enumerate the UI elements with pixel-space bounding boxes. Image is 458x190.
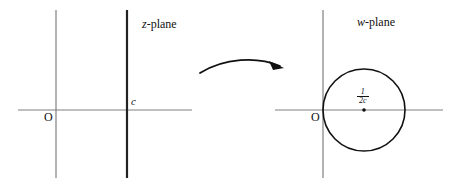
w-plane-label-suffix: -plane bbox=[365, 15, 395, 29]
mapping-arrow bbox=[200, 60, 284, 73]
z-plane-axes bbox=[18, 10, 192, 178]
w-plane-label: w-plane bbox=[357, 16, 395, 28]
z-plane-label-suffix: -plane bbox=[147, 17, 177, 31]
z-plane-label: z-plane bbox=[142, 18, 177, 30]
z-plane-point-c-label: c bbox=[131, 96, 136, 107]
mapping-arrow-head bbox=[269, 61, 284, 70]
w-plane-label-variable: w bbox=[357, 15, 365, 29]
w-plane-circle-center-label: 1 2c bbox=[357, 88, 369, 106]
center-label-denominator: 2c bbox=[357, 96, 369, 105]
mapping-arrow-curve bbox=[200, 60, 280, 73]
w-plane-origin-label: O bbox=[311, 111, 320, 123]
center-label-numerator: 1 bbox=[357, 88, 369, 96]
complex-mapping-figure: z-plane O c w-plane O 1 2c bbox=[0, 0, 458, 190]
w-plane-circle-center-dot bbox=[362, 108, 366, 112]
z-plane-origin-label: O bbox=[44, 111, 53, 123]
